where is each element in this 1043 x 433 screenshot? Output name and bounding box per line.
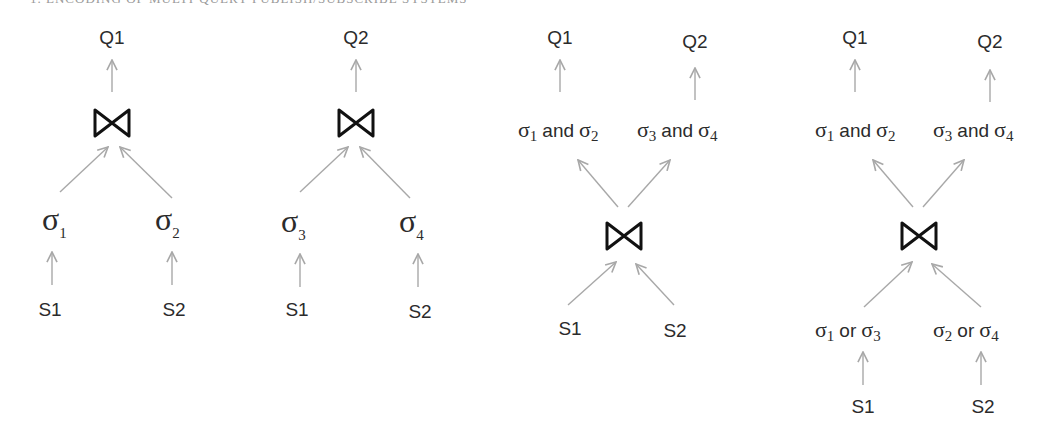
- arrow-up-icon: [873, 160, 913, 207]
- selection-sigma4: σ4: [399, 203, 424, 243]
- query-label-q1: Q1: [99, 27, 124, 48]
- query-label-q2: Q2: [343, 27, 368, 48]
- shared-join-prefilter-plan: Q1 Q2 σ1andσ2 σ3andσ4 σ1orσ3 σ2orσ4 S1 S…: [815, 27, 1014, 417]
- query-label-q1: Q1: [547, 27, 572, 48]
- prefilter-s2: σ2orσ4: [933, 317, 999, 344]
- selection-sigma1: σ1: [42, 201, 67, 241]
- arrow-up-icon: [60, 147, 108, 192]
- output-predicate-q1: σ1andσ2: [815, 117, 895, 144]
- source-s1: S1: [38, 299, 61, 320]
- arrow-up-icon: [360, 147, 410, 198]
- query-label-q2: Q2: [682, 31, 707, 52]
- source-s2: S2: [663, 320, 686, 341]
- arrow-up-icon: [578, 160, 618, 207]
- source-s2: S2: [162, 299, 185, 320]
- source-s2: S2: [408, 301, 431, 322]
- bowtie-join-icon: [902, 223, 936, 249]
- source-s1: S1: [851, 396, 874, 417]
- bowtie-join-icon: [607, 223, 641, 249]
- query-label-q2: Q2: [977, 31, 1002, 52]
- source-s2: S2: [971, 396, 994, 417]
- bowtie-join-icon: [95, 110, 129, 136]
- output-predicate-q2: σ3andσ4: [637, 117, 718, 144]
- plan-q2: Q2 σ3 σ4 S1 S2: [281, 27, 432, 322]
- output-predicate-q1: σ1andσ2: [518, 117, 598, 144]
- arrow-up-icon: [300, 147, 348, 192]
- query-plan-diagrams: Q1 σ1 σ2 S1 S2 Q2 σ3 σ4 S1 S2 Q1: [0, 0, 1043, 433]
- arrow-up-icon: [636, 264, 674, 305]
- bowtie-join-icon: [339, 110, 373, 136]
- query-label-q1: Q1: [842, 27, 867, 48]
- source-s1: S1: [558, 318, 581, 339]
- arrow-up-icon: [568, 262, 616, 305]
- arrow-up-icon: [864, 262, 912, 307]
- source-s1: S1: [285, 299, 308, 320]
- output-predicate-q2: σ3andσ4: [933, 117, 1014, 144]
- arrow-up-icon: [120, 147, 172, 198]
- selection-sigma3: σ3: [281, 203, 306, 243]
- selection-sigma2: σ2: [155, 201, 180, 241]
- prefilter-s1: σ1orσ3: [815, 317, 881, 344]
- arrow-up-icon: [932, 264, 981, 307]
- arrow-up-icon: [923, 160, 964, 207]
- shared-join-plan: Q1 Q2 σ1andσ2 σ3andσ4 S1 S2: [518, 27, 718, 341]
- plan-q1: Q1 σ1 σ2 S1 S2: [38, 27, 185, 320]
- arrow-up-icon: [628, 160, 670, 207]
